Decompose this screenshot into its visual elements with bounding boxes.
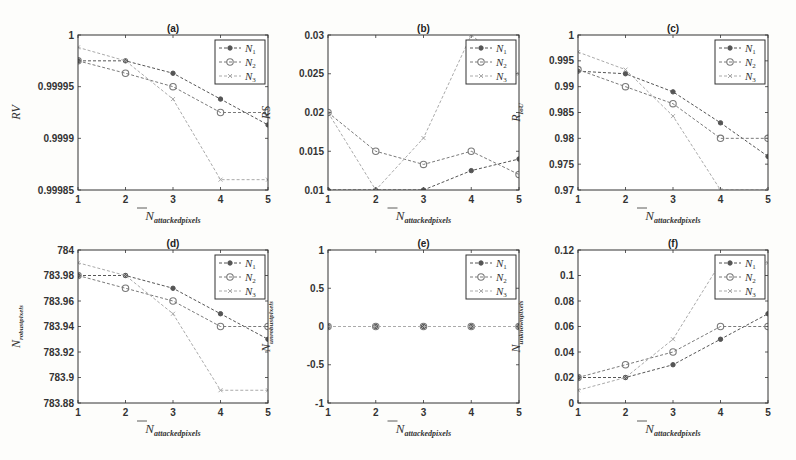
chart-canvas: (a)0.999850.99990.99995112345N1N2N3Natta… [0,0,796,460]
y-tick-label: -0.5 [307,359,325,370]
subplot-title: (a) [167,23,179,34]
subplot-e: (e)-1-0.500.5112345N1N2N3Nattackedpixels… [259,238,522,438]
x-tick-label: 1 [75,194,81,205]
y-tick-label: 0.04 [555,347,575,358]
x-tick-label: 2 [373,407,379,418]
x-axis-label: Nattackedpixels [144,421,200,438]
y-tick-label: 0.01 [305,185,325,196]
y-tick-label: 783.96 [43,296,74,307]
x-tick-label: 4 [718,194,724,205]
y-tick-label: 0.99995 [38,81,75,92]
legend: N1N2N3 [466,255,516,299]
y-tick-label: 0.99985 [38,185,75,196]
y-tick-label: 0.06 [555,321,575,332]
legend: N1N2N3 [466,40,516,84]
y-tick-label: 0.995 [549,55,574,66]
marker-dot-icon [218,97,222,101]
legend: N1N2N3 [215,255,265,299]
subplot-title: (c) [667,23,679,34]
x-tick-label: 2 [123,407,129,418]
x-tick-label: 5 [265,194,271,205]
y-tick-label: 784 [57,245,74,256]
x-tick-label: 5 [516,194,522,205]
x-tick-label: 5 [265,407,271,418]
y-tick-label: 1 [318,245,324,256]
x-axis-label: Nattackedpixels [395,421,451,438]
x-tick-label: 5 [765,194,771,205]
subplot-title: (f) [668,238,678,249]
y-tick-label: 0.1 [560,270,574,281]
y-tick-label: 783.98 [43,270,74,281]
y-tick-label: 0 [568,398,574,409]
y-tick-label: 783.88 [43,398,74,409]
marker-dot-icon [228,261,232,265]
marker-dot-icon [479,261,483,265]
marker-dot-icon [469,168,473,172]
y-tick-label: 783.94 [43,321,74,332]
y-tick-label: 0.9999 [43,133,74,144]
subplot-f: (f)00.020.040.060.080.10.1212345N1N2N3Na… [509,238,771,438]
x-tick-label: 1 [325,194,331,205]
y-tick-label: 0.975 [549,159,574,170]
y-tick-label: 0.5 [310,283,324,294]
y-tick-label: 0.98 [555,133,575,144]
x-tick-label: 1 [575,194,581,205]
x-tick-label: 5 [516,407,522,418]
y-axis-label: Nrobustpixels [9,305,25,349]
subplot-d: (d)783.88783.9783.92783.94783.96783.9878… [9,238,271,438]
y-tick-label: 0.03 [305,30,325,41]
x-tick-label: 3 [670,194,676,205]
subplot-title: (e) [417,238,429,249]
x-axis-label: Nattackedpixels [644,421,700,438]
y-tick-label: 0.02 [555,372,575,383]
marker-dot-icon [728,261,732,265]
y-tick-label: 1 [68,30,74,41]
legend: N1N2N3 [715,40,765,84]
x-axis-label: Nattackedpixels [395,208,451,225]
subplot-c: (c)0.970.9750.980.9850.990.995112345N1N2… [509,23,771,225]
marker-dot-icon [623,72,627,76]
x-tick-label: 2 [623,194,629,205]
x-tick-label: 4 [718,407,724,418]
legend: N1N2N3 [215,40,265,84]
marker-dot-icon [718,337,722,341]
x-tick-label: 1 [325,407,331,418]
figure-grid: (a)0.999850.99990.99995112345N1N2N3Natta… [0,0,796,460]
x-axis-label: Nattackedpixels [644,208,700,225]
x-tick-label: 4 [468,194,474,205]
y-axis-label: RS [259,106,273,120]
marker-dot-icon [479,46,483,50]
marker-dot-icon [671,363,675,367]
marker-dot-icon [218,312,222,316]
y-tick-label: 1 [568,30,574,41]
legend: N1N2N3 [715,255,765,299]
marker-dot-icon [728,46,732,50]
x-tick-label: 3 [170,407,176,418]
x-tick-label: 2 [373,194,379,205]
subplot-title: (b) [417,23,430,34]
y-tick-label: 783.9 [49,372,74,383]
x-tick-label: 1 [75,407,81,418]
subplot-a: (a)0.999850.99990.99995112345N1N2N3Natta… [9,23,271,225]
marker-dot-icon [671,90,675,94]
x-tick-label: 2 [123,194,129,205]
y-tick-label: 0.08 [555,296,575,307]
x-axis-label: Nattackedpixels [144,208,200,225]
y-tick-label: 0.99 [555,81,575,92]
y-tick-label: 0.985 [549,107,574,118]
marker-dot-icon [228,46,232,50]
y-tick-label: -1 [315,398,324,409]
x-tick-label: 3 [421,194,427,205]
x-tick-label: 3 [670,407,676,418]
y-tick-label: 0.97 [555,185,575,196]
y-tick-label: 0.12 [555,245,575,256]
y-tick-label: 0.025 [299,68,324,79]
y-tick-label: 0.015 [299,146,324,157]
subplot-title: (d) [167,238,180,249]
y-tick-label: 0 [318,321,324,332]
x-tick-label: 4 [218,194,224,205]
marker-dot-icon [171,71,175,75]
x-tick-label: 4 [218,407,224,418]
subplot-b: (b)0.010.0150.020.0250.0312345N1N2N3Natt… [259,23,522,225]
x-tick-label: 5 [765,407,771,418]
